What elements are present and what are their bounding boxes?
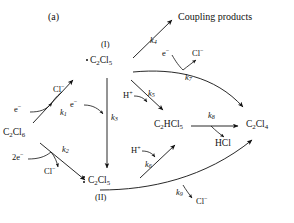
panel-label: (a) xyxy=(48,12,59,22)
species-anion-C2Cl5: C2Cl5 xyxy=(88,176,110,186)
feeder-electron-k1 xyxy=(30,103,52,112)
rate-constant-k4: k4 xyxy=(150,36,157,45)
reaction-arrows xyxy=(0,0,294,223)
species-C2Cl4: C2Cl4 xyxy=(246,120,268,130)
feeder-proton-k5 xyxy=(134,96,147,102)
feeder-electron-k7 xyxy=(172,55,183,70)
reaction-scheme: (a) (I) C2Cl5 C2Cl6 C2Cl5 (II) C2HCl5 C2… xyxy=(0,0,294,223)
reagent-electron-k7: e− xyxy=(162,48,169,57)
rate-constant-k7: k7 xyxy=(185,73,192,82)
leaver-chloride-k9 xyxy=(183,185,192,198)
reagent-chloride-k9: Cl− xyxy=(196,196,207,205)
carbanion-dots-icon xyxy=(83,176,86,184)
species-C2HCl5: C2HCl5 xyxy=(154,120,183,130)
reagent-proton-k5: H+ xyxy=(123,90,133,99)
reagent-electron-k3: e− xyxy=(70,99,77,108)
reagent-chloride-k2: Cl− xyxy=(44,166,55,175)
reagent-two-electron-k2: 2e− xyxy=(12,152,23,161)
leaver-hcl-k8 xyxy=(211,126,224,137)
radical-dot-icon xyxy=(86,59,89,62)
species-radical-C2Cl5: C2Cl5 xyxy=(90,56,112,66)
reagent-chloride-k7: Cl− xyxy=(192,48,203,57)
label-coupling-products: Coupling products xyxy=(178,12,252,22)
feeder-2e-k2 xyxy=(28,152,51,159)
leaver-chloride-k7 xyxy=(183,60,196,70)
rate-constant-k8: k8 xyxy=(208,111,215,120)
rate-constant-k2: k2 xyxy=(62,145,69,154)
feeder-electron-k3 xyxy=(84,105,103,114)
reagent-chloride-k1: Cl− xyxy=(53,84,64,93)
species-HCl: HCl xyxy=(215,139,231,149)
rate-constant-k1: k1 xyxy=(60,108,67,117)
rate-constant-k3: k3 xyxy=(111,113,118,122)
reagent-proton-k6: H+ xyxy=(131,145,141,154)
leaver-chloride-k2 xyxy=(51,152,58,167)
species-label-roman-II: (II) xyxy=(95,193,106,202)
rate-constant-k6: k6 xyxy=(145,160,152,169)
feeder-proton-k6 xyxy=(142,151,155,157)
arrow-k5 xyxy=(131,80,163,110)
rate-constant-k9: k9 xyxy=(176,188,183,197)
reagent-electron-k1: e− xyxy=(14,104,21,113)
rate-constant-k5: k5 xyxy=(148,89,155,98)
species-label-roman-I: (I) xyxy=(101,40,110,49)
species-C2Cl6: C2Cl6 xyxy=(3,128,25,138)
